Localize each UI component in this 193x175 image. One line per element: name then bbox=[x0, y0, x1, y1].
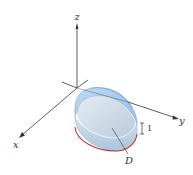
y-axis-label: y bbox=[178, 115, 185, 126]
z-axis-label: z bbox=[74, 11, 81, 22]
x-axis-back bbox=[77, 80, 88, 88]
z-axis-arrow-icon bbox=[76, 23, 79, 29]
x-axis bbox=[22, 88, 77, 135]
x-axis-label: x bbox=[13, 139, 19, 150]
region-label: D bbox=[124, 155, 133, 166]
solid-region-diagram: z y x 1 D bbox=[0, 0, 193, 175]
y-axis-back bbox=[62, 82, 77, 88]
height-label: 1 bbox=[147, 124, 152, 133]
